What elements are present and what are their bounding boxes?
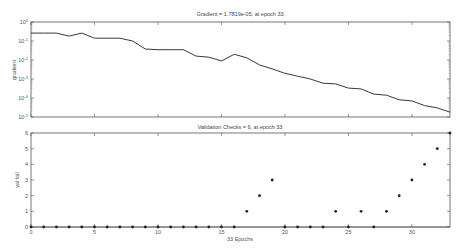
- validation-point: [93, 226, 96, 229]
- svg-text:5: 5: [25, 146, 28, 152]
- validation-point: [195, 226, 198, 229]
- validation-point: [449, 132, 452, 135]
- gradient-plot-title: Gradient = 1.7819e-05, at epoch 33: [197, 11, 284, 17]
- training-figure: Gradient = 1.7819e-05, at epoch 33 10010…: [0, 0, 464, 252]
- validation-point: [271, 179, 274, 182]
- validation-point: [296, 226, 299, 229]
- validation-point: [131, 226, 134, 229]
- svg-text:20: 20: [282, 229, 288, 235]
- validation-point: [157, 226, 160, 229]
- validation-points: [30, 132, 452, 229]
- svg-text:0: 0: [25, 224, 28, 230]
- validation-point: [30, 226, 33, 229]
- svg-text:10-1: 10-1: [18, 37, 28, 45]
- figure-caption: [60, 243, 440, 249]
- svg-text:15: 15: [218, 229, 224, 235]
- validation-point: [80, 226, 83, 229]
- validation-point: [245, 210, 248, 213]
- validation-point: [385, 210, 388, 213]
- validation-point: [347, 226, 350, 229]
- validation-point: [119, 226, 122, 229]
- validation-point: [436, 147, 439, 150]
- svg-text:25: 25: [345, 229, 351, 235]
- validation-point: [169, 226, 172, 229]
- svg-text:10-3: 10-3: [18, 75, 28, 83]
- validation-y-label: val fail: [14, 172, 20, 188]
- validation-point: [55, 226, 58, 229]
- svg-text:2: 2: [25, 193, 28, 199]
- validation-plot: Validation Checks = 6, at epoch 33 01234…: [14, 124, 451, 242]
- validation-point: [42, 226, 45, 229]
- validation-point: [233, 226, 236, 229]
- validation-point: [144, 226, 147, 229]
- validation-point: [360, 210, 363, 213]
- validation-point: [207, 226, 210, 229]
- validation-point: [423, 163, 426, 166]
- gradient-x-ticks: [31, 22, 412, 117]
- validation-point: [106, 226, 109, 229]
- validation-point: [68, 226, 71, 229]
- validation-point: [334, 210, 337, 213]
- svg-text:30: 30: [409, 229, 415, 235]
- svg-text:3: 3: [25, 177, 28, 183]
- validation-point: [372, 226, 375, 229]
- validation-x-ticks: 051015202530: [29, 133, 415, 235]
- gradient-plot: Gradient = 1.7819e-05, at epoch 33 10010…: [11, 11, 450, 120]
- validation-point: [322, 226, 325, 229]
- validation-x-label: 33 Epochs: [227, 236, 253, 242]
- gradient-line: [31, 33, 450, 112]
- validation-point: [411, 179, 414, 182]
- svg-text:4: 4: [25, 161, 28, 167]
- svg-text:6: 6: [25, 130, 28, 136]
- validation-point: [398, 194, 401, 197]
- svg-text:0: 0: [29, 229, 32, 235]
- validation-point: [258, 194, 261, 197]
- validation-point: [182, 226, 185, 229]
- svg-text:5: 5: [93, 229, 96, 235]
- validation-plot-frame: [31, 133, 450, 227]
- validation-y-ticks: 0123456: [25, 130, 450, 230]
- svg-text:10-5: 10-5: [18, 113, 28, 121]
- validation-point: [220, 226, 223, 229]
- gradient-plot-frame: [31, 22, 450, 117]
- gradient-y-ticks: 10010-110-210-310-410-5: [18, 18, 450, 121]
- validation-plot-title: Validation Checks = 6, at epoch 33: [198, 124, 283, 130]
- validation-point: [309, 226, 312, 229]
- svg-text:1: 1: [25, 208, 28, 214]
- svg-text:100: 100: [20, 18, 29, 26]
- svg-text:10-4: 10-4: [18, 94, 28, 102]
- svg-text:10: 10: [155, 229, 161, 235]
- gradient-y-label: gradient: [11, 60, 17, 80]
- validation-point: [284, 226, 287, 229]
- svg-text:10-2: 10-2: [18, 56, 28, 64]
